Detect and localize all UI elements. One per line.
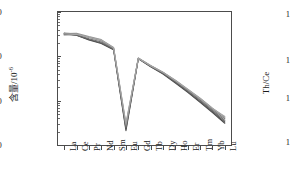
x-axis-tick xyxy=(225,146,226,150)
x-axis-tick xyxy=(138,146,139,150)
x-axis-tick xyxy=(77,146,78,150)
x-axis-tick xyxy=(101,146,102,150)
y-axis-title: 含量/10-6 xyxy=(7,53,20,117)
ree-series-line xyxy=(64,33,225,124)
x-axis-tick xyxy=(200,146,201,150)
x-axis-tick xyxy=(188,146,189,150)
x-axis-tick xyxy=(126,146,127,150)
ree-series-line xyxy=(64,34,225,123)
y-axis-tick-label: 1000 xyxy=(0,140,2,150)
x-axis-tick xyxy=(212,146,213,150)
ree-series-line xyxy=(64,35,225,128)
y-axis-tick-label: 1000000 xyxy=(0,7,2,17)
th-ce-tick-label: 1 xyxy=(286,9,290,19)
th-ce-panel: Th/Ce 1111 xyxy=(240,0,293,176)
th-ce-tick-label: 1 xyxy=(286,55,290,65)
y-axis-title-text: 含量/10 xyxy=(9,72,19,102)
ree-series-line xyxy=(64,33,225,130)
x-axis-tick xyxy=(163,146,164,150)
y-axis-tick-label: 100000 xyxy=(0,51,2,61)
plot-area xyxy=(57,11,232,146)
y-axis-title-exponent: -6 xyxy=(7,67,14,72)
x-axis-tick xyxy=(175,146,176,150)
th-ce-axis-title: Th/Ce xyxy=(261,60,271,106)
ree-lines-svg xyxy=(58,12,231,145)
x-axis-tick xyxy=(114,146,115,150)
x-axis-tick xyxy=(89,146,90,150)
th-ce-tick-label: 1 xyxy=(286,93,290,103)
th-ce-tick-label: 1 xyxy=(286,137,290,147)
x-axis-tick-label-lu: Lu xyxy=(228,141,238,151)
ree-series-line xyxy=(64,34,225,129)
figure-root: 1000100001000001000000 含量/10-6 LaCePrNdS… xyxy=(0,0,293,176)
y-axis-tick-label: 10000 xyxy=(0,96,2,106)
ree-series-line xyxy=(64,33,225,126)
x-axis-tick xyxy=(64,146,65,150)
ree-spider-chart-panel: 1000100001000001000000 含量/10-6 LaCePrNdS… xyxy=(0,0,240,176)
x-axis-tick xyxy=(151,146,152,150)
